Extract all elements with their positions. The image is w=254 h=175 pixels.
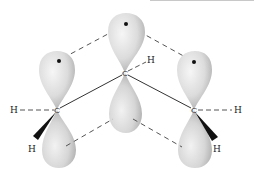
left-carbon-label: C bbox=[54, 106, 60, 115]
right-h-label: H bbox=[234, 105, 242, 115]
left-h-label: H bbox=[10, 105, 18, 115]
right-carbon-label: C bbox=[191, 106, 197, 115]
left-bottom-lobe bbox=[42, 110, 76, 168]
left-electron-dot bbox=[57, 59, 61, 63]
right-electron-dot bbox=[192, 60, 196, 64]
right-top-lobe bbox=[177, 51, 212, 110]
center-h-label: H bbox=[147, 55, 155, 65]
allyl-orbital-diagram: C C C H H H H H bbox=[0, 0, 254, 175]
right-wedge-h-label: H bbox=[213, 144, 221, 154]
left-top-lobe bbox=[39, 51, 75, 110]
center-bottom-lobe bbox=[109, 73, 142, 133]
center-electron-dot bbox=[124, 22, 128, 26]
center-top-lobe bbox=[108, 13, 145, 73]
left-wedge-h-label: H bbox=[28, 144, 36, 154]
center-carbon-label: C bbox=[122, 69, 128, 78]
right-bottom-lobe bbox=[178, 110, 212, 168]
